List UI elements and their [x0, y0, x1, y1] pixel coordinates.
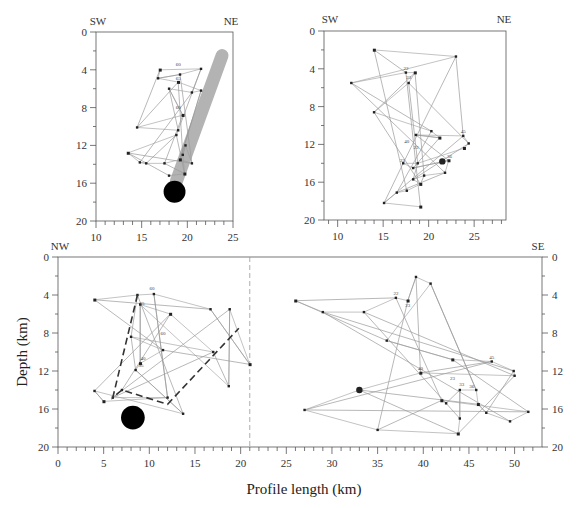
event-annotation: 65: [140, 301, 146, 306]
event-link: [295, 301, 386, 341]
direction-label-sw: SW: [90, 15, 107, 27]
event-dot: [459, 417, 461, 419]
event-annotation: 22: [403, 66, 409, 71]
event-link: [364, 312, 515, 376]
y-tick-label: 16: [38, 403, 50, 415]
event-link: [492, 362, 514, 372]
y-tick-label: 12: [76, 139, 87, 151]
event-dot: [191, 162, 193, 164]
y-tick-label-right: 12: [552, 365, 563, 377]
event-dot: [179, 158, 182, 161]
x-tick-label: 40: [418, 457, 430, 469]
event-annotation: 33: [459, 382, 465, 387]
event-dot: [376, 429, 378, 431]
event-link: [131, 337, 213, 352]
event-dot: [407, 82, 409, 84]
x-tick-label: 15: [189, 457, 201, 469]
event-dot: [419, 183, 422, 186]
y-tick-label: 12: [38, 365, 49, 377]
cross-section-figure: 04812162010152025606560SWNE 048121620101…: [0, 0, 581, 508]
large-event-dot: [356, 387, 362, 393]
y-tick-label: 8: [44, 327, 50, 339]
event-dot: [168, 88, 170, 90]
direction-label-ne: NE: [497, 13, 512, 25]
x-tick-label: 45: [463, 457, 475, 469]
x-tick-label: 15: [378, 230, 390, 242]
direction-label-ne: NE: [224, 15, 239, 27]
y-tick-label: 20: [304, 214, 316, 226]
event-dot: [406, 190, 408, 192]
event-link: [305, 410, 378, 430]
event-dot: [383, 202, 385, 204]
event-annotation: 40: [418, 366, 424, 371]
event-link: [146, 135, 176, 163]
y-tick-label: 4: [310, 63, 316, 75]
event-link: [416, 277, 431, 284]
event-link: [486, 371, 513, 413]
event-annotation: 23: [413, 145, 419, 150]
event-dot: [200, 68, 202, 70]
event-dot: [153, 293, 155, 295]
event-link: [137, 70, 160, 128]
event-dot: [395, 297, 397, 299]
y-tick-label-right: 20: [552, 441, 564, 453]
event-link: [396, 298, 408, 301]
event-dot: [182, 114, 185, 117]
x-tick-label: 25: [281, 457, 293, 469]
y-tick-label: 4: [82, 64, 88, 76]
y-tick-label: 0: [310, 25, 316, 37]
panel-bottom: 0044881212161620200510152025303540455060…: [38, 240, 564, 469]
x-tick-label: 25: [469, 230, 481, 242]
event-annotation: 40: [140, 356, 146, 361]
event-dot: [157, 77, 159, 79]
y-tick-label-right: 0: [552, 251, 558, 263]
y-tick-label: 16: [304, 176, 316, 188]
event-dot: [93, 390, 95, 392]
event-link: [323, 312, 510, 421]
event-dot: [191, 91, 193, 93]
direction-label-se: SE: [532, 240, 545, 252]
large-event-dot: [439, 158, 445, 164]
event-dot: [412, 167, 414, 169]
event-link: [458, 419, 460, 434]
event-annotation: 45: [461, 129, 467, 134]
event-dot: [159, 69, 162, 72]
event-dot: [407, 300, 410, 303]
event-link: [378, 400, 442, 429]
event-dot: [414, 71, 417, 74]
event-link: [137, 127, 178, 130]
event-dot: [168, 174, 170, 176]
event-dot: [249, 363, 252, 366]
mainshock-circle: [121, 406, 145, 430]
x-tick-label: 25: [228, 231, 240, 243]
event-dot: [373, 111, 375, 113]
event-dot: [405, 71, 407, 73]
event-link: [160, 69, 201, 70]
event-dot: [417, 162, 419, 164]
event-dot: [373, 49, 376, 52]
x-tick-label: 10: [332, 230, 344, 242]
event-link: [408, 277, 416, 301]
event-dot: [212, 351, 214, 353]
event-dot: [509, 420, 511, 422]
event-link: [154, 294, 168, 398]
event-annotation: 23: [450, 376, 456, 381]
event-dot: [457, 433, 460, 436]
event-link: [180, 69, 201, 75]
event-dot: [415, 276, 417, 278]
x-tick-label: 30: [326, 457, 338, 469]
event-annotation: 35: [139, 363, 145, 368]
event-link: [384, 203, 420, 207]
y-tick-label: 0: [44, 251, 50, 263]
event-link: [359, 373, 420, 390]
event-dot: [145, 162, 147, 164]
event-dot: [175, 134, 177, 136]
event-dot: [363, 311, 365, 313]
event-dot: [177, 81, 180, 84]
x-tick-label: 10: [144, 457, 156, 469]
event-dot: [184, 144, 186, 146]
event-dot: [451, 358, 454, 361]
event-dot: [136, 126, 138, 128]
y-tick-label-right: 4: [552, 289, 558, 301]
event-dot: [228, 308, 230, 310]
